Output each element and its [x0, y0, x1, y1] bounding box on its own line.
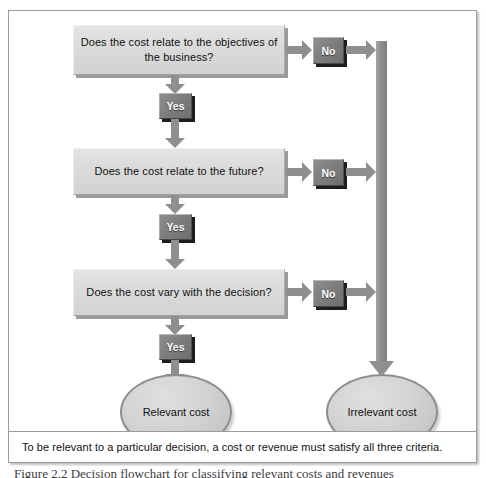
branch-label-no-2[interactable]: No [313, 159, 344, 186]
branch-label-no-2-text: No [322, 167, 336, 179]
arrow-down-icon [165, 195, 185, 214]
arrow-right-icon [346, 282, 376, 302]
branch-label-no-3-text: No [322, 288, 336, 300]
decision-box-vary-label: Does the cost vary with the decision? [80, 285, 277, 300]
figure-screenshot: Does the cost relate to the objectives o… [0, 0, 486, 478]
branch-label-no-1[interactable]: No [313, 37, 344, 64]
decision-box-future-label: Does the cost relate to the future? [88, 164, 269, 179]
arrow-down-icon [165, 316, 185, 335]
branch-label-yes-2[interactable]: Yes [159, 214, 192, 240]
figure-frame: Does the cost relate to the objectives o… [8, 10, 477, 463]
no-branch-connector-line [376, 41, 387, 366]
arrow-right-icon [286, 282, 312, 302]
arrow-down-icon [165, 75, 185, 94]
branch-label-yes-1[interactable]: Yes [159, 93, 192, 119]
branch-label-yes-3[interactable]: Yes [159, 334, 192, 360]
arrow-right-icon [286, 162, 312, 182]
branch-label-yes-1-text: Yes [166, 100, 184, 112]
decision-box-objectives-label: Does the cost relate to the objectives o… [74, 35, 284, 65]
outcome-irrelevant-cost-label: Irrelevant cost [347, 406, 416, 418]
arrow-down-icon [165, 240, 185, 269]
outcome-relevant-cost-label: Relevant cost [143, 406, 210, 418]
decision-box-future[interactable]: Does the cost relate to the future? [73, 148, 285, 195]
arrow-right-icon [346, 162, 376, 182]
flowchart-diagram: Does the cost relate to the objectives o… [9, 11, 476, 431]
figure-below-caption: Figure 2.2 Decision flowchart for classi… [14, 466, 474, 478]
arrow-right-icon [286, 40, 312, 60]
decision-box-vary[interactable]: Does the cost vary with the decision? [73, 269, 285, 316]
branch-label-yes-3-text: Yes [166, 341, 184, 353]
branch-label-no-3[interactable]: No [313, 280, 344, 307]
decision-box-objectives[interactable]: Does the cost relate to the objectives o… [73, 25, 285, 75]
branch-label-no-1-text: No [322, 45, 336, 57]
arrow-right-icon [346, 40, 376, 60]
figure-caption-note: To be relevant to a particular decision,… [9, 441, 442, 453]
figure-caption-strip: To be relevant to a particular decision,… [9, 431, 476, 462]
arrow-down-icon [165, 119, 185, 148]
branch-label-yes-2-text: Yes [166, 221, 184, 233]
